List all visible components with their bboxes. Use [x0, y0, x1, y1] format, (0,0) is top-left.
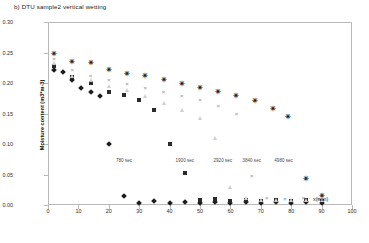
time-annotation: 2920 sec — [213, 158, 232, 163]
x-tick-mark — [352, 205, 353, 209]
y-tick-label: 0.25 — [0, 50, 13, 56]
y-tick-label: 0.20 — [0, 80, 13, 86]
x-tick-mark — [109, 205, 110, 209]
x-tick-mark — [78, 205, 79, 209]
x-tick-mark — [322, 205, 323, 209]
x-tick-mark — [291, 205, 292, 209]
chart-title: b) DTU sample2 vertical wetting — [14, 3, 106, 10]
x-tick-mark — [139, 205, 140, 209]
time-annotation: 4980 sec — [274, 158, 293, 163]
y-tick-mark — [44, 22, 48, 23]
chart-screenshot: b) DTU sample2 vertical wetting 0.000.05… — [0, 0, 369, 243]
time-annotation: 3840 sec — [242, 158, 261, 163]
x-tick-mark — [230, 205, 231, 209]
y-tick-label: 0.10 — [0, 141, 13, 147]
y-axis-label: Moisture content (m3*m-3) — [39, 55, 45, 175]
x-tick-mark — [170, 205, 171, 209]
time-annotation: 780 sec — [116, 158, 132, 163]
y-tick-label: 0.05 — [0, 172, 13, 178]
x-tick-mark — [48, 205, 49, 209]
x-axis-label: x(mm) — [313, 196, 328, 202]
plot-area — [48, 22, 352, 205]
y-tick-mark — [44, 53, 48, 54]
time-annotation: 1900 sec — [175, 158, 194, 163]
y-tick-label: 0.15 — [0, 111, 13, 117]
y-tick-label: 0.00 — [0, 202, 13, 208]
y-tick-label: 0.30 — [0, 19, 13, 25]
x-tick-mark — [261, 205, 262, 209]
x-tick-mark — [200, 205, 201, 209]
